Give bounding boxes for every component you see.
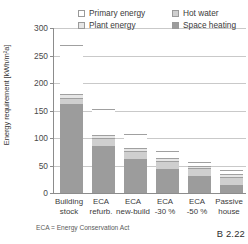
y-axis-tick-label: 250 <box>22 52 48 60</box>
bar-segment-plant <box>92 135 115 138</box>
y-axis-tick <box>50 83 54 84</box>
bar-segment-heating <box>188 176 211 193</box>
legend-item-label: Hot water <box>183 9 219 18</box>
y-axis-tick-label: 100 <box>22 134 48 142</box>
y-axis-tick <box>50 56 54 57</box>
y-axis-tick <box>50 138 54 139</box>
legend-item: Primary energy <box>78 8 145 19</box>
y-axis-tick-label: 50 <box>22 162 48 170</box>
bar-slot <box>55 28 87 193</box>
legend-swatch-icon <box>172 10 179 17</box>
legend-swatch-icon <box>172 22 179 29</box>
bar-segment-plant <box>156 158 179 161</box>
bar-segment-hotwater <box>60 98 83 104</box>
figure-container: Energy requirement [kWh/m²a] 05010015020… <box>0 0 248 244</box>
footnote: ECA = Energy Conservation Act <box>36 224 129 231</box>
stacked-bar <box>220 170 243 193</box>
legend-item-label: Primary energy <box>89 9 145 18</box>
bar-slot <box>151 28 183 193</box>
legend: Primary energyPlant energyHot waterSpace… <box>78 8 246 32</box>
y-axis-tick-label: 200 <box>22 79 48 87</box>
legend-item: Space heating <box>172 20 236 31</box>
bar-segment-hotwater <box>124 151 147 159</box>
y-axis-tick <box>50 111 54 112</box>
stacked-bar <box>92 109 115 193</box>
bar-segment-plant <box>60 94 83 98</box>
legend-item: Plant energy <box>78 20 136 31</box>
bar-slot <box>215 28 247 193</box>
bar-segment-plant <box>188 166 211 169</box>
y-axis-tick <box>50 166 54 167</box>
y-axis-tick-label: 150 <box>22 107 48 115</box>
bar-segment-heating <box>156 169 179 193</box>
y-axis-tick-label: 300 <box>22 24 48 32</box>
bar-slot <box>119 28 151 193</box>
stacked-bar <box>60 45 83 194</box>
legend-item-label: Plant energy <box>89 21 136 30</box>
plot-area <box>53 28 246 194</box>
bar-segment-primary <box>156 151 179 159</box>
bar-segment-heating <box>60 104 83 193</box>
bar-slot <box>87 28 119 193</box>
x-axis-label: Passive house <box>210 197 248 216</box>
bar-segment-primary <box>124 134 147 149</box>
legend-swatch-icon <box>78 10 85 17</box>
legend-swatch-icon <box>78 22 85 29</box>
y-axis-tick-label: 0 <box>22 189 48 197</box>
x-axis-category-labels: Building stockECA refurb.ECA new-buildEC… <box>53 197 246 219</box>
bar-slot <box>183 28 215 193</box>
stacked-bar <box>124 134 147 193</box>
bar-segment-primary <box>60 45 83 95</box>
bar-segment-hotwater <box>156 161 179 169</box>
bar-segment-primary <box>220 170 243 174</box>
figure-number: B 2.22 <box>217 228 245 239</box>
bar-segment-heating <box>92 146 115 193</box>
bar-segment-hotwater <box>220 177 243 185</box>
y-axis-tick <box>50 193 54 194</box>
y-axis-title: Energy requirement [kWh/m²a] <box>1 0 13 190</box>
bar-segment-plant <box>124 148 147 151</box>
legend-item: Hot water <box>172 8 219 19</box>
bar-group <box>55 28 246 193</box>
y-axis-tick <box>50 28 54 29</box>
legend-item-label: Space heating <box>183 21 236 30</box>
bar-segment-primary <box>92 109 115 135</box>
stacked-bar <box>156 151 179 193</box>
bar-segment-hotwater <box>188 168 211 176</box>
bar-segment-primary <box>188 162 211 165</box>
bar-segment-heating <box>124 159 147 193</box>
bar-segment-plant <box>220 174 243 177</box>
bar-segment-hotwater <box>92 138 115 146</box>
bar-segment-heating <box>220 185 243 193</box>
stacked-bar <box>188 162 211 193</box>
